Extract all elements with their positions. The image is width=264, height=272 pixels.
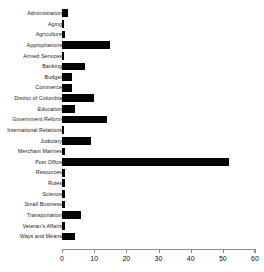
bar-track: [62, 221, 255, 232]
bar-row: Post Office: [0, 157, 264, 168]
x-axis-tick: [94, 249, 95, 253]
bar-row: Armed Services: [0, 51, 264, 62]
bar-value: [62, 105, 75, 113]
x-axis-tick-label: 30: [155, 255, 163, 262]
bar-track: [62, 61, 255, 72]
bar-track: [62, 210, 255, 221]
bar-value: [62, 148, 65, 156]
chart-title: [0, 0, 264, 1]
bar-track: [62, 104, 255, 115]
bar-category-label: Science: [42, 189, 62, 200]
x-axis-tick-label: 50: [219, 255, 227, 262]
bar-value: [62, 20, 64, 28]
bar-category-label: Budget: [45, 72, 62, 83]
bar-row: Commerce: [0, 82, 264, 93]
bar-value: [62, 73, 72, 81]
bar-value: [62, 94, 94, 102]
bar-category-label: Armed Services: [23, 51, 62, 62]
bar-category-label: Small Business: [24, 199, 62, 210]
bar-row: Government Reform: [0, 114, 264, 125]
bar-row: Resources: [0, 167, 264, 178]
bar-track: [62, 29, 255, 40]
x-axis-tick-label: 0: [60, 255, 64, 262]
bar-row: Rules: [0, 178, 264, 189]
bar-value: [62, 84, 72, 92]
bar-value: [62, 201, 65, 209]
bar-category-label: Administration: [27, 8, 62, 19]
bar-value: [62, 222, 65, 230]
x-axis-tick: [255, 249, 256, 253]
bar-row: District of Columbia: [0, 93, 264, 104]
bar-category-label: International Relations: [7, 125, 62, 136]
bar-track: [62, 125, 255, 136]
bar-category-label: Commerce: [35, 82, 62, 93]
bar-value: [62, 169, 65, 177]
bar-value: [62, 179, 65, 187]
bar-track: [62, 231, 255, 242]
bar-row: Agriculture: [0, 29, 264, 40]
bar-row: Administration: [0, 8, 264, 19]
x-axis-tick: [62, 249, 63, 253]
bar-category-label: Post Office: [35, 157, 62, 168]
bar-track: [62, 82, 255, 93]
bar-row: International Relations: [0, 125, 264, 136]
bar-chart: AdministrationAgingAgricultureAppropriat…: [0, 0, 264, 272]
bar-category-label: Aging: [48, 19, 62, 30]
plot-area: AdministrationAgingAgricultureAppropriat…: [0, 8, 264, 242]
bar-value: [62, 137, 91, 145]
bar-category-label: Resources: [36, 167, 62, 178]
bar-category-label: Veteran's Affairs: [22, 221, 62, 232]
bar-category-label: Transportation: [27, 210, 62, 221]
bar-value: [62, 211, 81, 219]
x-axis-tick: [159, 249, 160, 253]
x-axis-tick: [191, 249, 192, 253]
bar-category-label: Agriculture: [36, 29, 62, 40]
bar-track: [62, 146, 255, 157]
bar-track: [62, 178, 255, 189]
bar-track: [62, 51, 255, 62]
bar-row: Science: [0, 189, 264, 200]
x-axis-tick-label: 40: [187, 255, 195, 262]
bar-value: [62, 233, 75, 241]
bar-track: [62, 189, 255, 200]
bar-track: [62, 8, 255, 19]
x-axis-tick-label: 20: [122, 255, 130, 262]
bar-row: Appropriations: [0, 40, 264, 51]
bar-category-label: District of Columbia: [14, 93, 62, 104]
x-axis-tick: [126, 249, 127, 253]
bar-row: Merchant Marines: [0, 146, 264, 157]
bar-value: [62, 190, 65, 198]
bar-track: [62, 72, 255, 83]
bar-row: Veteran's Affairs: [0, 221, 264, 232]
bar-track: [62, 136, 255, 147]
bar-value: [62, 41, 110, 49]
bar-category-label: Education: [38, 104, 62, 115]
bar-track: [62, 40, 255, 51]
bar-row: Education: [0, 104, 264, 115]
bar-row: Ways and Means: [0, 231, 264, 242]
bar-category-label: Merchant Marines: [18, 146, 62, 157]
bar-row: Transportation: [0, 210, 264, 221]
x-axis-tick-label: 60: [251, 255, 259, 262]
bar-category-label: Ways and Means: [20, 231, 62, 242]
bar-row: Small Business: [0, 199, 264, 210]
bar-value: [62, 158, 229, 166]
bar-track: [62, 19, 255, 30]
bar-row: Aging: [0, 19, 264, 30]
bar-track: [62, 167, 255, 178]
bar-row: Judiciary: [0, 136, 264, 147]
bar-value: [62, 52, 64, 60]
bar-track: [62, 157, 255, 168]
bar-row: Banking: [0, 61, 264, 72]
bar-category-label: Judiciary: [40, 136, 62, 147]
x-axis-tick-label: 10: [90, 255, 98, 262]
bar-value: [62, 9, 68, 17]
bar-value: [62, 116, 107, 124]
bar-track: [62, 114, 255, 125]
bar-category-label: Banking: [42, 61, 62, 72]
bar-track: [62, 199, 255, 210]
x-axis-tick: [223, 249, 224, 253]
bar-value: [62, 126, 64, 134]
bar-value: [62, 31, 65, 39]
bar-category-label: Appropriations: [27, 40, 62, 51]
